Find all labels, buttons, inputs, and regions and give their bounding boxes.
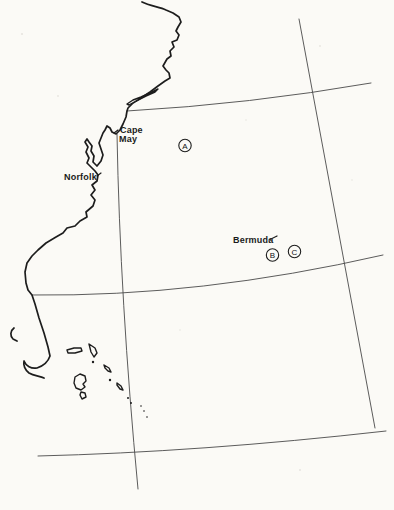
islet-dot <box>127 397 129 399</box>
station-marker-c: C <box>288 245 300 257</box>
island-eleuthera <box>104 365 111 372</box>
island-andros-south <box>80 392 86 399</box>
coastline-group <box>11 2 181 418</box>
island-abaco <box>89 344 97 357</box>
coastline-path <box>24 2 181 378</box>
station-letter-c: C <box>292 248 298 257</box>
parallel-line-north <box>127 83 371 111</box>
parallel-line-south <box>38 431 386 456</box>
station-letter-b: B <box>270 251 275 260</box>
parallel-line-middle <box>32 255 383 295</box>
map-svg: Cape May Norfolk Bermuda A B C <box>0 0 394 510</box>
graticule-grid <box>32 19 386 489</box>
station-letter-a: A <box>182 142 188 151</box>
islet-dot <box>109 379 111 381</box>
meridian-line-west <box>117 134 138 489</box>
bahamas-islands <box>67 344 148 418</box>
station-marker-b: B <box>266 249 278 261</box>
scan-speckles <box>21 33 353 471</box>
islet-dot <box>143 410 145 412</box>
long-island-outline <box>127 89 158 105</box>
islet-dot <box>146 416 148 418</box>
islet-dot <box>92 361 94 363</box>
label-bermuda: Bermuda <box>233 235 274 245</box>
islet-dot <box>140 405 142 407</box>
place-labels: Cape May Norfolk Bermuda <box>64 125 277 245</box>
islet-dot <box>130 402 132 404</box>
gulf-coast-fragment <box>11 328 17 341</box>
island-grand-bahama <box>67 348 82 353</box>
label-cape-may-line2: May <box>119 134 137 144</box>
map-figure: Cape May Norfolk Bermuda A B C <box>0 0 394 510</box>
station-marker-a: A <box>179 139 191 151</box>
island-andros <box>74 374 86 390</box>
label-norfolk: Norfolk <box>64 172 98 182</box>
meridian-line-east <box>299 19 375 428</box>
island-cat <box>117 383 123 390</box>
